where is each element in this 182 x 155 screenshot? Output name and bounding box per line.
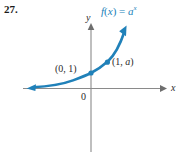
function-equals: =: [116, 5, 128, 17]
y-axis-arrowhead-icon: [88, 23, 95, 30]
origin-label: 0: [81, 92, 86, 102]
point-label-0-1: (0, 1): [55, 64, 77, 74]
graph-canvas: [0, 0, 182, 155]
point-marker-1-a: [105, 60, 110, 65]
point-marker-0-1: [88, 70, 93, 75]
x-axis-arrowhead-icon: [160, 85, 167, 92]
curve-path: [33, 32, 125, 88]
y-axis: [88, 23, 95, 152]
curve-left-arrowhead-icon: [27, 84, 37, 91]
point-label-1-a: (1, a): [112, 57, 134, 67]
y-axis-label: y: [86, 13, 90, 23]
exercise-figure: 27. f(x) = ax y x 0 (0, 1) (1, a): [0, 0, 182, 155]
function-label: f(x) = ax: [101, 5, 137, 17]
x-axis-label: x: [171, 83, 175, 93]
function-exponent: x: [134, 4, 137, 12]
